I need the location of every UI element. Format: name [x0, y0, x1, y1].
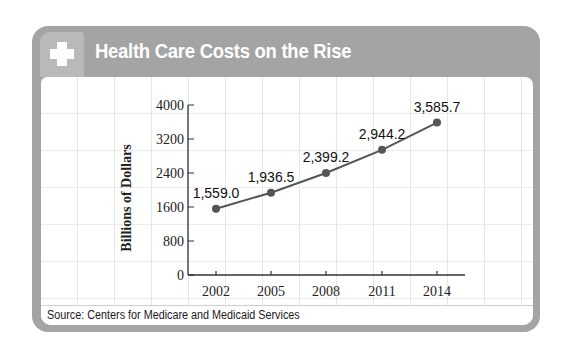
x-tick-label: 2014 [423, 284, 451, 299]
data-point [212, 205, 220, 213]
y-tick-label: 3200 [156, 132, 184, 147]
data-point [433, 119, 441, 127]
data-point [267, 189, 275, 197]
y-tick-label: 800 [163, 234, 184, 249]
y-tick-label: 2400 [156, 166, 184, 181]
data-point [378, 146, 386, 154]
data-label: 2,399.2 [303, 149, 350, 165]
source-bar: Source: Centers for Medicare and Medicai… [41, 305, 533, 325]
x-tick-label: 2005 [257, 284, 285, 299]
source-text: Source: Centers for Medicare and Medicai… [47, 308, 300, 322]
chart-panel: 0800160024003200400020022005200820112014… [41, 77, 533, 325]
y-tick-label: 1600 [156, 200, 184, 215]
x-tick-label: 2002 [202, 284, 230, 299]
line-chart: 0800160024003200400020022005200820112014… [41, 77, 533, 305]
y-tick-label: 0 [177, 268, 184, 283]
data-label: 2,944.2 [359, 126, 406, 142]
x-tick-label: 2011 [368, 284, 395, 299]
y-tick-label: 4000 [156, 98, 184, 113]
x-tick-label: 2008 [312, 284, 340, 299]
chart-title: Health Care Costs on the Rise [95, 39, 351, 63]
chart-frame: Health Care Costs on the Rise 0800160024… [32, 26, 540, 332]
data-label: 1,559.0 [193, 185, 240, 201]
data-label: 3,585.7 [414, 99, 461, 115]
header-icon-box [40, 32, 84, 77]
data-label: 1,936.5 [248, 169, 295, 185]
data-point [322, 169, 330, 177]
y-axis-label: Billions of Dollars [119, 144, 134, 252]
